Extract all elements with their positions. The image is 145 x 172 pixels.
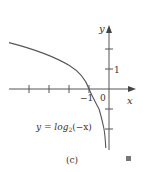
- caption: (c): [66, 155, 78, 165]
- x-axis-label: x: [127, 95, 133, 106]
- y-axis-arrow-icon: [106, 25, 112, 33]
- y-axis-label: y: [98, 23, 105, 34]
- equation-label: y = log2(−x): [35, 122, 92, 133]
- origin-label: 0: [100, 93, 106, 103]
- tick-label-x-neg1: −1: [80, 93, 93, 103]
- end-of-proof-square-icon: [126, 156, 131, 161]
- log-graph: y x 0 −1 1 y = log2(−x) (c): [0, 0, 145, 172]
- tick-label-y-1: 1: [114, 65, 120, 75]
- x-axis-arrow-icon: [128, 86, 136, 92]
